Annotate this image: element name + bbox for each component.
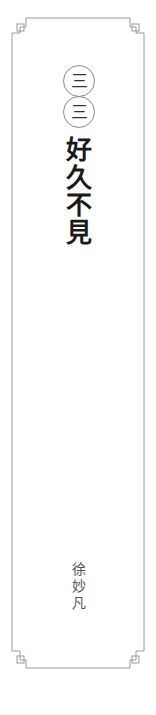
series-number-digit: 三: [71, 104, 88, 121]
title-char: 好: [66, 137, 92, 165]
series-number-circle-1: 三: [63, 65, 95, 97]
series-number-digit: 三: [71, 73, 88, 90]
book-title: 好 久 不 見: [62, 137, 96, 247]
author-char: 徐: [72, 561, 86, 578]
title-char: 久: [66, 165, 92, 193]
author-name: 徐 妙 凡: [68, 561, 90, 612]
title-char: 不: [66, 192, 92, 220]
author-char: 妙: [72, 578, 86, 595]
series-number-circle-2: 三: [63, 96, 95, 128]
author-char: 凡: [72, 595, 86, 612]
title-char: 見: [66, 220, 92, 248]
